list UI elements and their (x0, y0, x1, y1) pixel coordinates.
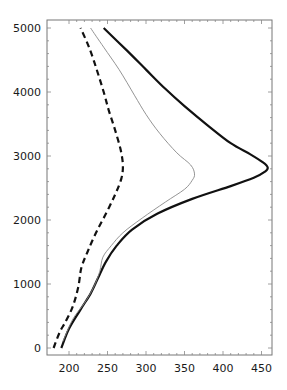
series-dashed (54, 28, 123, 348)
series-thin-gray (63, 28, 195, 342)
axis-ticks (47, 20, 272, 355)
y-tick-label: 5000 (13, 22, 41, 35)
y-tick-label: 1000 (13, 278, 41, 291)
x-tick-label: 350 (174, 362, 195, 375)
y-axis-tick-labels: 010002000300040005000 (13, 22, 41, 355)
x-tick-label: 300 (136, 362, 157, 375)
line-chart: 010002000300040005000 200250300350400450 (0, 0, 287, 390)
x-tick-label: 400 (213, 362, 234, 375)
x-tick-label: 200 (59, 362, 80, 375)
series-thick-solid (61, 28, 267, 348)
x-tick-label: 250 (97, 362, 118, 375)
x-tick-label: 450 (251, 362, 272, 375)
x-axis-tick-labels: 200250300350400450 (59, 362, 273, 375)
y-tick-label: 3000 (13, 150, 41, 163)
y-tick-label: 2000 (13, 214, 41, 227)
y-tick-label: 4000 (13, 86, 41, 99)
plot-frame (47, 20, 272, 355)
y-tick-label: 0 (34, 342, 41, 355)
data-series (54, 28, 268, 348)
